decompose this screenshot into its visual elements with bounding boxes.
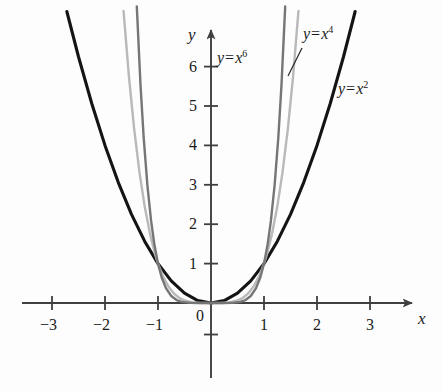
curve-label-x6-exponent: 6: [242, 48, 247, 59]
x-tick-label-5: 3: [366, 317, 374, 333]
x-tick-label-4: 2: [313, 317, 321, 333]
y-axis-label: y: [188, 26, 196, 43]
origin-label: 0: [196, 308, 204, 324]
x-axis-label: x: [418, 310, 426, 327]
x-tick-label-2: −1: [146, 317, 163, 333]
y-tick-label-4: 5: [189, 98, 197, 114]
y-tick-label-2: 3: [189, 177, 197, 193]
y-tick-label-3: 4: [189, 137, 197, 153]
x-tick-label-1: −2: [93, 317, 110, 333]
curve-label-x4-exponent: 4: [328, 24, 333, 35]
y-tick-label-0: 1: [189, 256, 197, 272]
curve-label-x2: y=x2: [338, 81, 368, 97]
y-tick-label-1: 2: [189, 216, 197, 232]
power-functions-figure: −3−2−1123123456 y x 0 y=x6 y=x4 y=x2: [0, 0, 443, 392]
curve-label-x4: y=x4: [303, 26, 333, 42]
x-tick-label-3: 1: [260, 317, 268, 333]
y-tick-label-5: 6: [189, 59, 197, 75]
x-tick-label-0: −3: [40, 317, 57, 333]
curve-label-x4-eq: =: [310, 25, 321, 42]
curve-label-x2-exponent: 2: [363, 79, 368, 90]
curve-label-x2-eq: =: [345, 80, 356, 97]
curve-label-x6-eq: =: [224, 49, 235, 66]
curve-label-x6: y=x6: [217, 50, 247, 66]
